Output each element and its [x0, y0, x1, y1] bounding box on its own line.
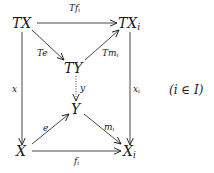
label-e: e [43, 124, 48, 133]
object-X: X [16, 144, 26, 158]
object-TX: TX [12, 16, 31, 30]
index-condition: (i ∈ I) [169, 84, 203, 96]
object-TXi-text: TX [118, 15, 137, 31]
object-TY-text: TY [64, 60, 83, 76]
label-mi-subscript: i [113, 126, 115, 132]
label-Tmi-subscript: i [117, 52, 119, 58]
object-Xi: Xi [123, 144, 136, 160]
object-TXi: TXi [118, 16, 140, 32]
arrow-e [32, 114, 69, 144]
label-x: x [12, 85, 17, 94]
arrow-mi [84, 114, 121, 144]
label-mi: mi [104, 123, 114, 133]
object-TX-text: TX [12, 15, 31, 31]
object-TY: TY [64, 61, 83, 75]
label-Te: Te [37, 49, 48, 58]
object-X-text: X [16, 143, 26, 159]
label-Tmi-text: Tm [102, 48, 117, 58]
label-y: y [80, 84, 85, 93]
object-TXi-subscript: i [137, 22, 140, 32]
label-x-text: x [12, 84, 17, 94]
label-Tfi-subscript: i [78, 7, 80, 13]
label-Tfi: Tfi [69, 4, 80, 14]
label-Tmi: Tmi [102, 49, 118, 59]
object-Xi-subscript: i [133, 150, 136, 160]
label-xi: xi [133, 85, 140, 95]
object-Y: Y [71, 102, 80, 116]
object-Xi-text: X [123, 143, 133, 159]
label-Te-text: Te [37, 48, 48, 58]
object-Y-text: Y [71, 101, 80, 117]
label-Tfi-text: Tf [69, 3, 78, 13]
label-mi-text: m [104, 122, 113, 132]
label-fi: fi [74, 157, 79, 167]
commutative-diagram: TX TXi TY Y X Xi Tfi Te Tmi x y xi e mi … [0, 0, 214, 173]
label-xi-subscript: i [138, 88, 140, 94]
label-e-text: e [43, 123, 48, 133]
label-fi-subscript: i [77, 160, 79, 166]
label-y-text: y [80, 83, 85, 93]
